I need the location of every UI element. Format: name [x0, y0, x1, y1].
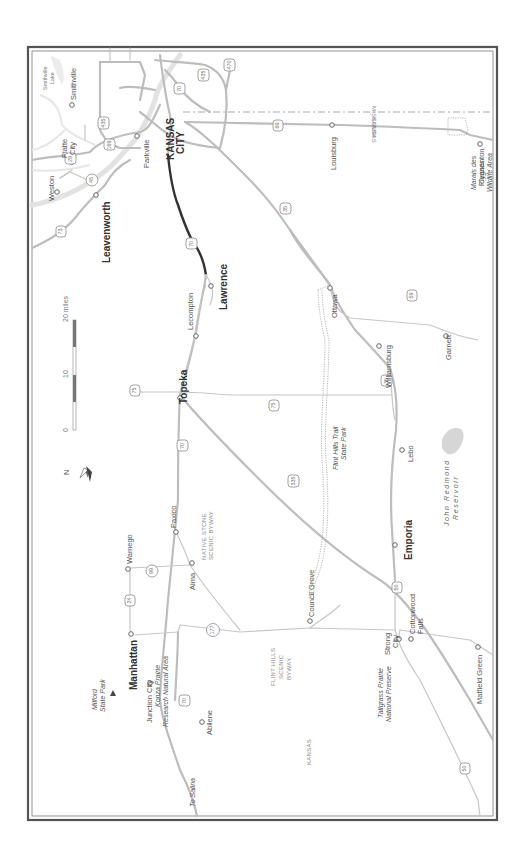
svg-text:59: 59 — [408, 292, 414, 298]
label-paxico: Paxico — [169, 505, 178, 528]
svg-text:335: 335 — [290, 476, 296, 485]
shield-i335: 335 — [288, 475, 299, 487]
svg-text:435: 435 — [100, 118, 106, 127]
road-map: 29 169 435 70 435 470 45 73 69 35 70 75 … — [0, 0, 523, 855]
label-tallgrass-1: Tallgrass Prairie — [377, 668, 385, 718]
shield-i70-top: 70 — [177, 440, 188, 451]
label-garnett: Garnett — [444, 334, 453, 360]
label-konza-1: Konza Prairie — [154, 665, 161, 707]
label-lebo: Lebo — [406, 445, 415, 462]
label-konza-2: Research Natural Area — [162, 656, 169, 727]
shield-k45: 45 — [86, 174, 98, 186]
label-lecompton: Lecompton — [186, 293, 195, 330]
label-smithville-lake-2: Lake — [49, 72, 55, 84]
label-wamego: Wamego — [125, 534, 134, 564]
shield-i70-kc: 70 — [174, 83, 185, 94]
john-redmond-reservoir-shape — [442, 428, 464, 454]
svg-text:35: 35 — [282, 206, 288, 212]
label-kansas-city-2: CITY — [175, 131, 186, 154]
shield-i70-w: 70 — [179, 695, 190, 706]
shield-us59: 59 — [407, 290, 417, 301]
shield-k99: 99 — [146, 565, 158, 577]
svg-text:24: 24 — [126, 597, 132, 603]
label-topeka: Topeka — [178, 369, 189, 404]
label-tallgrass-2: National Preserve — [385, 666, 392, 722]
shield-i70-law: 70 — [186, 238, 197, 249]
shield-i35-n: 35 — [280, 203, 291, 214]
label-flint-hills-byway-3: BYWAY — [286, 657, 292, 680]
svg-text:75: 75 — [270, 402, 276, 408]
svg-text:470: 470 — [226, 60, 232, 69]
svg-text:70: 70 — [188, 241, 194, 247]
label-leavenworth: Leavenworth — [101, 201, 112, 263]
shield-us50-w: 50 — [460, 763, 470, 774]
north-label: N — [62, 470, 71, 475]
highlighted-route-i70 — [168, 155, 206, 275]
highway-shields: 29 169 435 70 435 470 45 73 69 35 70 75 … — [56, 59, 470, 774]
label-smithville: Smithville — [69, 68, 78, 100]
label-parkville: Parkville — [142, 140, 151, 168]
shield-i435-n: 435 — [98, 117, 109, 129]
svg-text:45: 45 — [88, 177, 94, 183]
shield-i435-e: 435 — [198, 69, 209, 81]
label-cottonwood-falls-2: Falls — [416, 618, 425, 634]
label-native-stone-1: NATIVE STONE — [201, 513, 207, 560]
label-kansas-west: KANSAS — [306, 739, 312, 765]
scale-tick-10: 10 — [62, 370, 69, 378]
svg-text:73: 73 — [57, 228, 63, 234]
label-john-redmond-1: John Redmond — [443, 459, 450, 527]
road-us75 — [130, 392, 392, 395]
label-kansas-east: KANSAS — [371, 117, 377, 143]
flint-hills-trail — [309, 285, 330, 600]
label-emporia: Emporia — [403, 520, 414, 560]
label-marais-3: Wildlife Area — [486, 153, 493, 192]
shield-us50-e: 50 — [392, 582, 402, 593]
svg-text:177: 177 — [209, 625, 215, 634]
label-milford-2: State Park — [99, 679, 106, 712]
shield-us69: 69 — [273, 120, 283, 131]
scale-tick-0: 0 — [62, 428, 69, 432]
label-strong-city-2: City — [391, 635, 400, 648]
label-to-salina: To Salina — [189, 778, 196, 807]
label-weston: Weston — [47, 176, 56, 201]
svg-text:70: 70 — [176, 86, 182, 92]
label-flint-hills-byway-2: SCENIC — [278, 654, 284, 679]
scale-bar: 0 10 20 miles — [62, 295, 76, 432]
shield-us169: 169 — [104, 139, 115, 150]
shield-k177: 177 — [207, 624, 220, 637]
scale-tick-20: 20 miles — [62, 295, 69, 322]
shield-us75-n: 75 — [130, 385, 140, 396]
shield-us75-s: 75 — [269, 400, 279, 411]
label-louisburg: Louisburg — [329, 137, 338, 170]
shield-us24: 24 — [125, 595, 135, 606]
milford-park-marker — [110, 690, 116, 696]
svg-text:50: 50 — [461, 765, 467, 771]
svg-text:99: 99 — [148, 568, 154, 574]
label-flint-hills-trail-1: Flint Hills Trail — [332, 426, 339, 470]
label-council-grove: Council Grove — [307, 569, 316, 617]
label-milford-1: Milford — [91, 688, 98, 710]
label-matfield-green: Matfield Green — [475, 655, 484, 704]
label-ottawa: Ottawa — [330, 293, 339, 318]
svg-text:69: 69 — [274, 122, 280, 128]
label-alma: Alma — [188, 572, 197, 590]
label-williamsburg: Williamsburg — [384, 345, 393, 388]
road-us59 — [330, 285, 478, 340]
svg-text:435: 435 — [200, 70, 206, 79]
label-manhattan: Manhattan — [128, 640, 139, 690]
label-platte-city-2: City — [68, 142, 77, 155]
svg-text:70: 70 — [181, 698, 187, 704]
label-smithville-lake-1: Smithville — [42, 66, 48, 90]
label-flint-hills-trail-2: State Park — [340, 427, 347, 460]
svg-text:70: 70 — [179, 443, 185, 449]
shield-i470: 470 — [224, 59, 235, 71]
label-abilene: Abilene — [205, 710, 214, 735]
svg-text:75: 75 — [131, 387, 137, 393]
label-junction-city: Junction City — [145, 680, 154, 723]
north-arrow: N — [62, 466, 92, 482]
svg-text:169: 169 — [106, 140, 112, 149]
label-native-stone-2: SCENIC BYWAY — [208, 511, 214, 560]
shield-us73: 73 — [56, 226, 66, 237]
road-i35 — [290, 230, 397, 580]
label-flint-hills-byway-1: FLINT HILLS — [270, 648, 276, 686]
